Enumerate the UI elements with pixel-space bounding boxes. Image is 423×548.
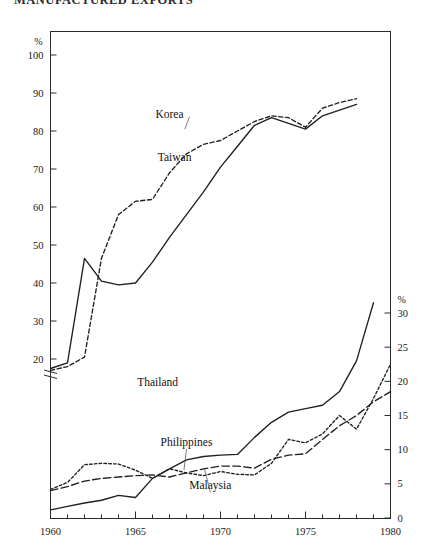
left-tick-label: 40 (33, 278, 44, 289)
series-line-philippines (51, 364, 391, 489)
left-tick-label: 30 (33, 316, 44, 327)
x-tick-label: 1975 (295, 526, 316, 537)
series-label-philippines: Philippines (161, 436, 213, 449)
series-line-malaysia (51, 392, 391, 491)
left-tick-label: 80 (33, 126, 44, 137)
chart-root: MANUFACTURED EXPORTS 2030405060708090100… (0, 0, 423, 548)
korea-leader-line (185, 117, 190, 129)
line-chart-svg: 2030405060708090100% 051015202530% 19601… (0, 0, 423, 548)
page-header-strip: MANUFACTURED EXPORTS (0, 0, 423, 14)
right-tick-label: 15 (398, 410, 409, 421)
x-tick-label: 1980 (380, 526, 401, 537)
series-label-thailand: Thailand (137, 376, 178, 388)
plot-frame (51, 32, 391, 519)
series-label-korea: Korea (155, 108, 183, 120)
page-header-text: MANUFACTURED EXPORTS (14, 0, 193, 8)
x-tick-label: 1965 (125, 526, 146, 537)
series-label-taiwan: Taiwan (158, 151, 192, 163)
left-tick-label: 100 (28, 50, 44, 61)
series-line-korea (51, 99, 357, 371)
left-axis-unit: % (34, 36, 42, 47)
right-tick-label: 10 (398, 444, 409, 455)
left-tick-label: 70 (33, 164, 44, 175)
left-tick-label: 60 (33, 202, 44, 213)
left-axis: 2030405060708090100% (28, 36, 57, 365)
plot-border (51, 32, 391, 519)
right-tick-label: 0 (398, 513, 403, 524)
x-tick-label: 1970 (210, 526, 231, 537)
x-tick-label: 1960 (40, 526, 61, 537)
right-axis-unit: % (398, 294, 406, 305)
left-tick-label: 20 (33, 354, 44, 365)
right-tick-label: 30 (398, 308, 409, 319)
series-label-malaysia: Malaysia (189, 479, 231, 492)
right-tick-label: 5 (398, 478, 403, 489)
x-axis: 19601965197019751980 (40, 512, 401, 537)
series-lines (51, 99, 391, 510)
right-tick-label: 20 (398, 376, 409, 387)
right-tick-label: 25 (398, 342, 409, 353)
right-axis: 051015202530% (385, 294, 409, 524)
series-labels: KoreaTaiwanThailandPhilippinesMalaysia (137, 108, 231, 493)
left-tick-label: 90 (33, 88, 44, 99)
left-tick-label: 50 (33, 240, 44, 251)
